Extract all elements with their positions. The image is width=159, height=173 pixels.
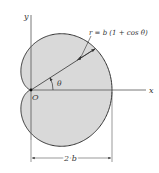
dimension-label: 2 b	[63, 154, 77, 163]
theta-label: θ	[57, 79, 62, 88]
origin-point	[30, 89, 33, 92]
origin-label: O	[32, 93, 39, 102]
x-axis-label: x	[149, 86, 154, 95]
cardioid-figure: y x O θ r = b (1 + cos θ) 2 b	[0, 0, 159, 173]
equation-label: r = b (1 + cos θ)	[89, 29, 148, 37]
y-axis-label: y	[23, 12, 29, 21]
